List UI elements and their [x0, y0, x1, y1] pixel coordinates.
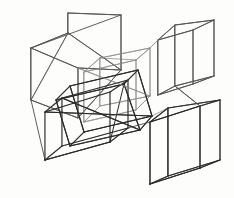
wireframe-boxes-illustration: [0, 0, 234, 198]
drawing-canvas: [0, 0, 234, 198]
